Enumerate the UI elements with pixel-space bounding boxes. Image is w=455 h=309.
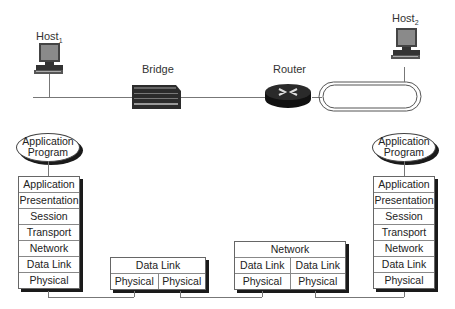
host2-osi-stack: Application Presentation Session Transpo… bbox=[373, 176, 435, 289]
router-icon bbox=[264, 83, 312, 109]
bridge-data-link: Data Link bbox=[111, 258, 205, 274]
host1-osi-stack: Application Presentation Session Transpo… bbox=[18, 176, 80, 289]
conn-bridge-router bbox=[180, 297, 262, 298]
host2-label-text: Host bbox=[392, 12, 415, 24]
layer-data-link: Data Link bbox=[19, 257, 79, 273]
ring-network-icon bbox=[318, 80, 424, 114]
layer-session: Session bbox=[374, 209, 434, 225]
router-physical-left: Physical bbox=[235, 274, 291, 289]
conn-host1-bridge bbox=[48, 297, 134, 298]
layer-network: Network bbox=[374, 241, 434, 257]
router-data-link-row: Data Link Data Link bbox=[235, 258, 345, 274]
bridge-icon bbox=[130, 81, 182, 111]
router-network: Network bbox=[235, 242, 345, 258]
layer-physical: Physical bbox=[19, 273, 79, 288]
layer-presentation: Presentation bbox=[374, 193, 434, 209]
host1-drop-line bbox=[49, 74, 50, 97]
host1-label-text: Host bbox=[36, 30, 59, 42]
router-data-link-right: Data Link bbox=[291, 258, 346, 273]
bridge-physical-left: Physical bbox=[111, 274, 159, 289]
bridge-protocol-stack: Data Link Physical Physical bbox=[110, 257, 206, 290]
host2-application-program: Application Program bbox=[372, 133, 436, 162]
host2-label: Host2 bbox=[392, 12, 419, 26]
layer-session: Session bbox=[19, 209, 79, 225]
layer-data-link: Data Link bbox=[374, 257, 434, 273]
layer-application: Application bbox=[19, 177, 79, 193]
layer-network: Network bbox=[19, 241, 79, 257]
host1-application-program: Application Program bbox=[16, 133, 80, 162]
host2-drop-line bbox=[404, 67, 405, 82]
layer-transport: Transport bbox=[374, 225, 434, 241]
computer-icon bbox=[391, 27, 421, 67]
router-protocol-stack: Network Data Link Data Link Physical Phy… bbox=[234, 241, 346, 290]
layer-transport: Transport bbox=[19, 225, 79, 241]
host1-app-connector bbox=[48, 161, 49, 176]
layer-application: Application bbox=[374, 177, 434, 193]
router-physical-row: Physical Physical bbox=[235, 274, 345, 289]
app-program-line2: Program bbox=[373, 147, 435, 158]
bridge-physical-right: Physical bbox=[159, 274, 206, 289]
conn-router-left-down bbox=[262, 291, 263, 297]
router-physical-right: Physical bbox=[291, 274, 346, 289]
host2-app-connector bbox=[404, 161, 405, 176]
conn-bridge-left-down bbox=[134, 291, 135, 297]
host2-subscript: 2 bbox=[415, 19, 419, 26]
router-label: Router bbox=[273, 63, 306, 75]
router-data-link-left: Data Link bbox=[235, 258, 291, 273]
bridge-physical-row: Physical Physical bbox=[111, 274, 205, 289]
layer-presentation: Presentation bbox=[19, 193, 79, 209]
conn-host2-down bbox=[404, 292, 405, 297]
conn-router-host2 bbox=[315, 297, 404, 298]
app-program-line2: Program bbox=[17, 147, 79, 158]
layer-physical: Physical bbox=[374, 273, 434, 288]
bridge-label: Bridge bbox=[142, 63, 174, 75]
